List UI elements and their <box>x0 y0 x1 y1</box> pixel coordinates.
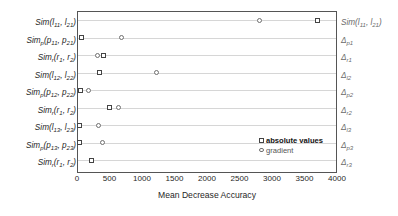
legend-square-icon <box>259 138 264 143</box>
x-axis-tick-labels: 05001000150020002500300035004000 <box>77 174 337 186</box>
data-point-circle-1 <box>119 35 124 40</box>
legend-circle-icon <box>259 148 264 153</box>
y-axis-label-4: Simp(p12, p22) <box>26 87 76 98</box>
data-point-square-2 <box>101 53 106 58</box>
legend-label: gradient <box>266 146 293 155</box>
legend-label: absolute values <box>266 136 323 145</box>
data-point-circle-3 <box>154 70 159 75</box>
right-axis-label-5: Δr2 <box>341 105 352 116</box>
y-axis-label-8: Simr(r1, r2) <box>38 157 76 168</box>
data-point-square-0 <box>315 18 320 23</box>
x-tick-label-0: 0 <box>75 174 79 184</box>
y-axis-label-3: Sim(l12, l22) <box>35 70 76 81</box>
right-axis-label-1: Δp1 <box>341 35 353 46</box>
data-point-circle-7 <box>100 140 105 145</box>
gridline-row-6 <box>78 125 336 126</box>
y-axis-category-labels: Sim(l11, l21)Simp(p11, p21)Simr(r1, r2)S… <box>0 14 77 166</box>
right-axis-label-6: Δl3 <box>341 122 351 133</box>
data-point-square-8 <box>89 158 94 163</box>
y-axis-label-6: Sim(l13, l23) <box>35 122 76 133</box>
y-axis-label-0: Sim(l11, l21) <box>35 17 76 28</box>
gridline-row-3 <box>78 73 336 74</box>
chart-legend: absolute valuesgradient <box>259 136 337 158</box>
data-point-circle-2 <box>95 53 100 58</box>
x-tick-label-2000: 2000 <box>198 174 216 184</box>
gridline-row-0 <box>78 20 336 21</box>
data-point-square-7 <box>77 140 82 145</box>
right-axis-label-3: Δl2 <box>341 70 351 81</box>
x-tick-label-4000: 4000 <box>328 174 346 184</box>
data-point-square-3 <box>97 70 102 75</box>
data-point-circle-0 <box>257 18 262 23</box>
data-point-square-4 <box>78 88 83 93</box>
y-axis-label-7: Simp(p13, p23) <box>26 140 76 151</box>
scatter-chart-figure: Sim(l11, l21)Simp(p11, p21)Simr(r1, r2)S… <box>0 0 398 216</box>
gridline-row-2 <box>78 55 336 56</box>
right-axis-label-0: Sim(l11, l21) <box>341 17 382 28</box>
data-point-square-6 <box>77 123 82 128</box>
gridline-row-4 <box>78 90 336 91</box>
data-point-circle-6 <box>96 123 101 128</box>
y-axis-label-1: Simp(p11, p21) <box>27 35 77 46</box>
gridline-row-1 <box>78 38 336 39</box>
gridline-row-8 <box>78 160 336 161</box>
x-tick-label-2500: 2500 <box>231 174 249 184</box>
right-axis-label-2: Δr1 <box>341 52 352 63</box>
x-axis-title: Mean Decrease Accuracy <box>77 190 337 200</box>
right-axis-label-4: Δp2 <box>341 87 353 98</box>
data-point-square-1 <box>79 35 84 40</box>
data-point-square-5 <box>107 105 112 110</box>
data-point-circle-5 <box>116 105 121 110</box>
y-axis-label-5: Simr(r1, r2) <box>38 105 76 116</box>
x-tick-label-1500: 1500 <box>166 174 184 184</box>
y-axis-label-2: Simr(r1, r2) <box>38 52 76 63</box>
x-tick-label-3500: 3500 <box>296 174 314 184</box>
right-axis-label-7: Δp3 <box>341 140 353 151</box>
right-axis-label-8: Δr3 <box>341 157 352 168</box>
right-axis-delta-labels: Sim(l11, l21)Δp1Δr1Δl2Δp2Δr2Δl3Δp3Δr3 <box>341 14 398 166</box>
x-tick-label-3000: 3000 <box>263 174 281 184</box>
data-point-circle-4 <box>86 88 91 93</box>
x-tick-label-1000: 1000 <box>133 174 151 184</box>
x-tick-label-500: 500 <box>103 174 116 184</box>
